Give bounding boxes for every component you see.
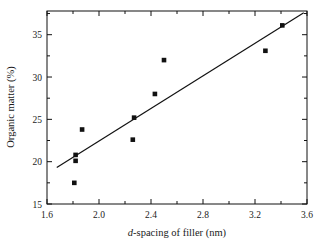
data-point-marker — [263, 48, 268, 53]
axes-border — [47, 11, 307, 204]
x-tick-label: 1.6 — [41, 210, 53, 220]
plot-frame — [47, 11, 307, 204]
figure-container: 1.62.02.42.83.23.6 1520253035 d-spacing … — [0, 0, 326, 246]
data-point-marker — [162, 58, 167, 63]
x-axis-title: d-spacing of filler (nm) — [128, 227, 227, 239]
x-tick-label: 2.8 — [197, 210, 209, 220]
x-tick-label: 3.2 — [249, 210, 261, 220]
y-axis-title: Organic matter (%) — [5, 66, 17, 148]
data-point-marker — [72, 181, 77, 186]
y-tick-label: 20 — [33, 157, 43, 167]
fit-line — [57, 13, 304, 168]
data-point-marker — [280, 23, 285, 28]
scatter-plot: 1.62.02.42.83.23.6 1520253035 d-spacing … — [0, 0, 326, 246]
data-point-marker — [132, 115, 137, 120]
data-point-marker — [131, 137, 136, 142]
y-tick-labels: 1520253035 — [33, 30, 43, 209]
data-point-marker — [153, 92, 158, 97]
data-point-marker — [73, 159, 78, 164]
y-tick-label: 25 — [33, 115, 43, 125]
y-tick-label: 35 — [33, 30, 43, 40]
data-point-marker — [73, 153, 78, 158]
x-tick-label: 2.4 — [145, 210, 157, 220]
x-tick-label: 3.6 — [301, 210, 313, 220]
regression-line — [57, 13, 304, 168]
y-tick-label: 30 — [33, 73, 43, 83]
x-tick-label: 2.0 — [93, 210, 105, 220]
data-points — [72, 23, 285, 185]
y-tick-label: 15 — [33, 200, 43, 210]
x-tick-labels: 1.62.02.42.83.23.6 — [41, 210, 313, 220]
data-point-marker — [80, 127, 85, 132]
tick-marks — [47, 11, 307, 204]
